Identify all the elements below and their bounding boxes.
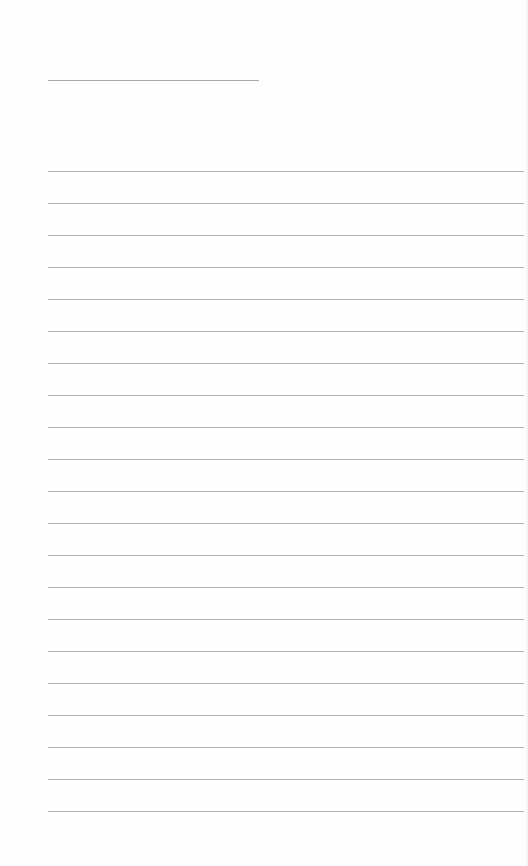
ruled-line — [48, 747, 524, 748]
ruled-line — [48, 363, 524, 364]
ruled-line — [48, 459, 524, 460]
ruled-line — [48, 555, 524, 556]
ruled-line — [48, 491, 524, 492]
ruled-line — [48, 587, 524, 588]
ruled-line — [48, 395, 524, 396]
ruled-line — [48, 299, 524, 300]
ruled-line — [48, 619, 524, 620]
ruled-line — [48, 203, 524, 204]
ruled-line — [48, 811, 524, 812]
ruled-line — [48, 235, 524, 236]
ruled-line — [48, 267, 524, 268]
ruled-line — [48, 651, 524, 652]
lined-paper-page — [0, 0, 528, 866]
title-underline — [48, 80, 259, 81]
ruled-line — [48, 331, 524, 332]
ruled-line — [48, 427, 524, 428]
ruled-line — [48, 683, 524, 684]
ruled-line — [48, 523, 524, 524]
ruled-line — [48, 715, 524, 716]
ruled-line — [48, 171, 524, 172]
ruled-line — [48, 779, 524, 780]
